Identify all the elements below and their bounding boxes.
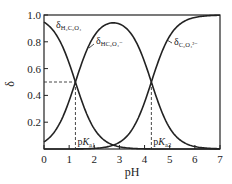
x-tick-label: 3	[117, 153, 123, 165]
x-tick-label: 0	[41, 153, 47, 165]
y-tick-label: 0.2	[27, 116, 41, 128]
y-tick-label: 1.0	[27, 9, 41, 21]
pka-label: pKa2	[153, 136, 171, 148]
y-axis-title: δ	[3, 81, 17, 87]
series-label: δHC₂O₄⁻	[96, 35, 123, 47]
x-tick-label: 4	[142, 153, 148, 165]
x-tick-label: 1	[66, 153, 72, 165]
y-tick-label: 0.6	[27, 63, 41, 75]
x-axis-title: pH	[125, 165, 140, 179]
x-tick-label: 6	[192, 153, 198, 165]
series-label: δH₂C₂O₄	[56, 19, 82, 31]
y-tick-label: 0.8	[27, 36, 41, 48]
pka-label: pKa1	[77, 136, 95, 148]
x-tick-label: 7	[217, 153, 223, 165]
y-tick-label: 0.4	[27, 89, 41, 101]
series-label: δC₂O₄²⁻	[174, 36, 198, 48]
x-tick-label: 5	[167, 153, 173, 165]
speciation-chart: 0.20.40.60.81.0 01234567 pKa1pKa2δH₂C₂O₄…	[0, 0, 232, 184]
x-tick-label: 2	[92, 153, 98, 165]
curve-labels: pKa1pKa2δH₂C₂O₄δHC₂O₄⁻δC₂O₄²⁻	[56, 19, 198, 148]
pka-guide-lines	[44, 82, 151, 149]
y-axis-ticks: 0.20.40.60.81.0	[27, 9, 48, 128]
